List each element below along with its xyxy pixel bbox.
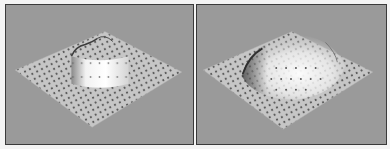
left-surface-panel bbox=[5, 4, 194, 145]
flat-top-bump-surface-plot bbox=[6, 5, 193, 144]
right-surface-panel bbox=[196, 4, 387, 145]
dome-bump-surface-plot bbox=[197, 5, 386, 144]
